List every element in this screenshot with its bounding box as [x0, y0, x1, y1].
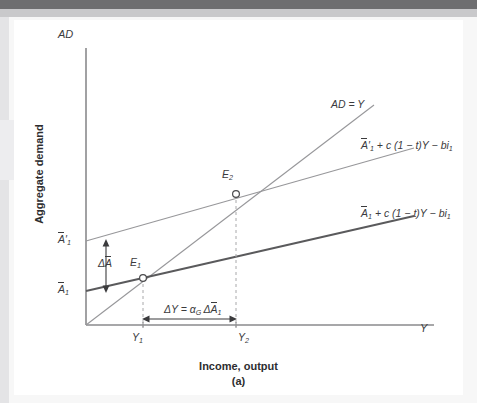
curve-label-ad-equals-y: AD = Y [331, 98, 364, 110]
x-axis-symbol-label: Y [420, 323, 427, 334]
delta-autonomous-arrowhead-up [103, 239, 110, 247]
x-axis-title: Income, output [14, 360, 463, 372]
delta-autonomous-arrowhead-down [103, 286, 110, 294]
equilibrium-point-e1 [140, 275, 147, 282]
figure-caption: (a) [14, 375, 463, 387]
left-margin-strip [0, 17, 9, 403]
top-banner-bar [0, 0, 477, 9]
top-banner-shadow [0, 9, 477, 17]
intercept-label-upper: A′1 [58, 233, 71, 245]
y-axis-title: Aggregate demand [33, 104, 45, 244]
x-tick-label-y1: Y1 [132, 331, 143, 343]
equilibrium-point-e2 [233, 191, 240, 198]
y-axis-symbol-label: AD [58, 29, 73, 40]
equilibrium-label-e2: E2 [222, 168, 233, 180]
curve-label-upper-ad: A′1 + c (1 − t)Y − bi1 [361, 139, 453, 151]
x-tick-label-y2: Y2 [238, 331, 249, 343]
figure-panel: AD Y AD = Y A′1 + c (1 − t)Y − bi1 A1 + … [14, 20, 463, 395]
annotation-delta-income: ΔY = αG ΔA1 [164, 303, 222, 315]
left-margin-strip-accent [0, 120, 14, 180]
curve-label-lower-ad: A1 + c (1 − t)Y − bi1 [361, 207, 451, 219]
intercept-label-lower: A1 [58, 283, 69, 295]
equilibrium-label-e1: E1 [130, 256, 141, 268]
curve-ad-equals-y [86, 105, 374, 325]
page-root: AD Y AD = Y A′1 + c (1 − t)Y − bi1 A1 + … [0, 0, 477, 403]
annotation-delta-autonomous: ΔA [98, 257, 112, 269]
chart-plot-area: AD Y AD = Y A′1 + c (1 − t)Y − bi1 A1 + … [14, 20, 463, 395]
